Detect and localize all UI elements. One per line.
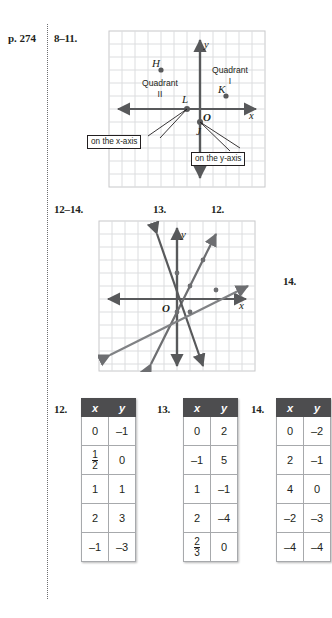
table-13-r2-x: 1 bbox=[184, 475, 211, 504]
fraction-numerator: 1 bbox=[92, 450, 98, 460]
table-row: 0–1 bbox=[82, 417, 136, 446]
quadrant-II-line1: Quadrant bbox=[142, 78, 178, 88]
callout-on-the-y-axis: on the y-axis bbox=[191, 152, 245, 166]
table-label-13: 13. bbox=[157, 403, 170, 415]
table-header-row: x y bbox=[277, 399, 331, 417]
callout-on-the-x-axis: on the x-axis bbox=[87, 135, 141, 149]
table-12-header-y: y bbox=[109, 399, 136, 417]
y-axis-label-2: y bbox=[180, 228, 186, 240]
y-axis-label: y bbox=[203, 39, 209, 50]
table-14-r2-x: 4 bbox=[277, 475, 304, 504]
table-13-r1-x: –1 bbox=[184, 446, 211, 475]
table-13-r3-x: 2 bbox=[184, 504, 211, 533]
table-12-r0-x: 0 bbox=[82, 417, 109, 446]
origin-label-2: O bbox=[162, 302, 170, 314]
table-12-r2-y: 1 bbox=[109, 475, 136, 504]
table-14-r3-y: –3 bbox=[304, 504, 331, 533]
table-header-row: x y bbox=[82, 399, 136, 417]
callout-y-axis-text: on the y-axis bbox=[195, 154, 241, 163]
exercise-label-12-14: 12–14. bbox=[54, 203, 83, 215]
fraction-two-thirds: 2 3 bbox=[194, 537, 200, 558]
table-12-r1-y: 0 bbox=[109, 446, 136, 475]
table-row: 23 bbox=[82, 504, 136, 533]
table-row: 2 3 0 bbox=[184, 533, 238, 562]
table-row: 1 2 0 bbox=[82, 446, 136, 475]
table-13-r4-y: 0 bbox=[211, 533, 238, 562]
callout-x-axis-text: on the x-axis bbox=[91, 137, 137, 146]
table-14-r3-x: –2 bbox=[277, 504, 304, 533]
table-13-r3-y: –4 bbox=[211, 504, 238, 533]
table-12-r1-x: 1 2 bbox=[82, 446, 109, 475]
table-row: –2–3 bbox=[277, 504, 331, 533]
textbook-answer-page: p. 274 8–11. bbox=[0, 0, 332, 618]
table-13-header-y: y bbox=[211, 399, 238, 417]
table-row: 40 bbox=[277, 475, 331, 504]
table-row: 0–2 bbox=[277, 417, 331, 446]
vertical-dotted-divider bbox=[47, 24, 48, 599]
table-label-12: 12. bbox=[54, 403, 67, 415]
table-12-r2-x: 1 bbox=[82, 475, 109, 504]
table-row: 2–1 bbox=[277, 446, 331, 475]
table-14-r0-x: 0 bbox=[277, 417, 304, 446]
table-row: –15 bbox=[184, 446, 238, 475]
answer-table-13: x y 02 –15 1–1 2–4 2 3 0 bbox=[183, 398, 238, 562]
table-13-r0-y: 2 bbox=[211, 417, 238, 446]
table-12-r0-y: –1 bbox=[109, 417, 136, 446]
x-axis-label: x bbox=[248, 110, 254, 121]
table-12-r4-y: –3 bbox=[109, 533, 136, 562]
quadrant-I-line2: I bbox=[229, 76, 231, 86]
point-label-K: K bbox=[217, 83, 226, 95]
fraction-one-half: 1 2 bbox=[92, 450, 98, 471]
line-label-12: 12. bbox=[211, 203, 224, 215]
fraction-denominator: 3 bbox=[194, 547, 200, 558]
table-row: 1–1 bbox=[184, 475, 238, 504]
table-12-header-x: x bbox=[82, 399, 109, 417]
line-label-14: 14. bbox=[283, 275, 296, 287]
page-reference: p. 274 bbox=[8, 32, 36, 44]
table-12-r3-x: 2 bbox=[82, 504, 109, 533]
table-12-r3-y: 3 bbox=[109, 504, 136, 533]
answer-table-14: x y 0–2 2–1 40 –2–3 –4–4 bbox=[276, 398, 331, 562]
table-13-r4-x: 2 3 bbox=[184, 533, 211, 562]
table-14-r4-y: –4 bbox=[304, 533, 331, 562]
quadrant-II-line2: II bbox=[158, 89, 163, 99]
x-axis-label-2: x bbox=[238, 299, 244, 311]
table-14-header-y: y bbox=[304, 399, 331, 417]
exercise-label-8-11: 8–11. bbox=[54, 32, 77, 44]
table-14-r0-y: –2 bbox=[304, 417, 331, 446]
table-row: –4–4 bbox=[277, 533, 331, 562]
fraction-denominator: 2 bbox=[92, 460, 98, 471]
point-label-H: H bbox=[151, 57, 161, 69]
line-label-13: 13. bbox=[153, 203, 166, 215]
table-header-row: x y bbox=[184, 399, 238, 417]
table-13-r2-y: –1 bbox=[211, 475, 238, 504]
table-row: 11 bbox=[82, 475, 136, 504]
table-13-header-x: x bbox=[184, 399, 211, 417]
table-14-header-x: x bbox=[277, 399, 304, 417]
table-13-r0-x: 0 bbox=[184, 417, 211, 446]
fraction-numerator: 2 bbox=[194, 537, 200, 547]
table-14-r1-x: 2 bbox=[277, 446, 304, 475]
table-label-14: 14. bbox=[251, 403, 264, 415]
table-row: 02 bbox=[184, 417, 238, 446]
point-label-L: L bbox=[181, 93, 188, 105]
table-14-r2-y: 0 bbox=[304, 475, 331, 504]
coordinate-graph-12-14: O x y bbox=[98, 220, 256, 372]
table-14-r4-x: –4 bbox=[277, 533, 304, 562]
origin-label: O bbox=[203, 111, 211, 123]
table-14-r1-y: –1 bbox=[304, 446, 331, 475]
table-13-r1-y: 5 bbox=[211, 446, 238, 475]
quadrant-I-line1: Quadrant bbox=[212, 65, 248, 75]
table-row: 2–4 bbox=[184, 504, 238, 533]
table-12-r4-x: –1 bbox=[82, 533, 109, 562]
table-row: –1–3 bbox=[82, 533, 136, 562]
answer-table-12: x y 0–1 1 2 0 11 23 –1–3 bbox=[81, 398, 136, 562]
